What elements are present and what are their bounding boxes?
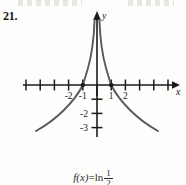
marked-point-negative-one [81,83,85,87]
y-tick-label-neg3: -3 [80,123,88,133]
textbook-figure-page: 21. [0,0,186,185]
formula-fraction: 1 2 [104,169,113,185]
marked-point-positive-one [109,83,113,87]
x-axis-label: x [175,86,181,97]
formula-lhs: f(x) [73,171,88,183]
curve-right-branch [99,20,158,131]
x-tick-label-neg1: -1 [79,91,87,101]
y-axis-arrow-icon [93,11,101,20]
x-tick-label-pos1: 1 [109,91,114,101]
y-tick-label-neg2: -2 [80,109,88,119]
function-graph: x y -2 -1 1 2 -2 -3 [0,0,186,185]
x-tick-label-neg2: -2 [65,91,73,101]
y-axis-label: y [101,10,107,21]
fraction-numerator: 1 [104,169,113,178]
graph-svg: x y -2 -1 1 2 -2 -3 [0,0,186,185]
function-formula: f(x)=ln 1 2 [0,169,186,185]
x-tick-label-pos2: 2 [123,91,128,101]
formula-operator: ln [95,171,104,183]
fraction-denominator: 2 [104,179,113,185]
